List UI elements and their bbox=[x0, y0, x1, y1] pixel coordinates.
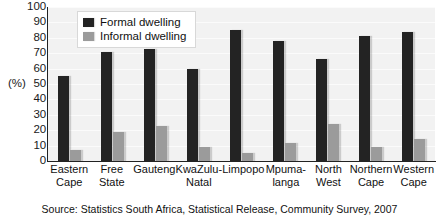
bar-informal bbox=[156, 126, 167, 161]
x-axis-tick-label-line1: Mpuma- bbox=[266, 163, 306, 175]
x-axis-tick-label: NorthernCape bbox=[350, 163, 393, 199]
bar-informal bbox=[414, 139, 425, 161]
x-axis-tick-label: KwaZulu-Natal bbox=[176, 163, 222, 199]
legend-item-label: Informal dwelling bbox=[100, 30, 186, 42]
x-axis-tick-label-line1: Limpopo bbox=[222, 163, 264, 175]
x-axis-tick-label: NorthWest bbox=[307, 163, 350, 199]
bar-formal bbox=[273, 41, 284, 161]
bar-formal bbox=[144, 49, 155, 161]
bar-group bbox=[349, 7, 392, 161]
x-axis-tick-label-line2: Cape bbox=[392, 176, 435, 189]
bar-informal bbox=[371, 147, 382, 161]
x-axis-tick-label-line1: Gauteng bbox=[133, 163, 175, 175]
bar-formal bbox=[230, 30, 241, 161]
x-axis-tick-label-line1: KwaZulu- bbox=[176, 163, 222, 175]
y-axis-tick-label: 70 bbox=[14, 47, 46, 59]
bar-group bbox=[263, 7, 306, 161]
x-axis-tick-label-line1: Western bbox=[393, 163, 434, 175]
bar-group bbox=[220, 7, 263, 161]
bar-informal bbox=[70, 150, 81, 161]
x-axis-tick-label: FreeState bbox=[91, 163, 134, 199]
y-axis-tick-label: 0 bbox=[14, 155, 46, 167]
legend-item-label: Formal dwelling bbox=[100, 16, 181, 28]
y-axis-unit-label: (%) bbox=[8, 78, 26, 90]
y-axis: 1009080706050(%)403020100 bbox=[14, 0, 46, 168]
legend-item: Formal dwelling bbox=[83, 15, 186, 29]
chart-legend: Formal dwellingInformal dwelling bbox=[77, 11, 196, 48]
legend-swatch-icon bbox=[83, 18, 94, 27]
source-note: Source: Statistics South Africa, Statist… bbox=[0, 203, 439, 215]
x-axis-tick-label-line2: Cape bbox=[350, 176, 393, 189]
x-axis-tick-label-line2: Natal bbox=[176, 176, 222, 189]
x-axis-tick-label-line1: Eastern bbox=[50, 163, 88, 175]
y-axis-tick-label: 40 bbox=[14, 94, 46, 106]
bar-informal bbox=[199, 147, 210, 161]
bar-formal bbox=[187, 69, 198, 161]
x-axis-tick-label-line2: West bbox=[307, 176, 350, 189]
y-axis-tick-label: 80 bbox=[14, 32, 46, 44]
legend-item: Informal dwelling bbox=[83, 29, 186, 43]
bar-informal bbox=[113, 132, 124, 161]
x-axis-tick-label-line2: Cape bbox=[48, 176, 91, 189]
bar-informal bbox=[242, 153, 253, 161]
x-axis-tick-label: Gauteng bbox=[133, 163, 176, 199]
bar-formal bbox=[402, 32, 413, 161]
x-axis-tick-label-line1: Northern bbox=[350, 163, 393, 175]
x-axis-tick-label: Limpopo bbox=[222, 163, 265, 199]
x-axis-tick-label-line2: langa bbox=[265, 176, 308, 189]
x-axis-tick-label-line1: North bbox=[315, 163, 342, 175]
y-axis-tick-label: 20 bbox=[14, 124, 46, 136]
x-axis-tick-label: EasternCape bbox=[48, 163, 91, 199]
y-axis-tick-label: 60 bbox=[14, 63, 46, 75]
x-axis-tick-label-line1: Free bbox=[100, 163, 123, 175]
y-axis-tick-label: 10 bbox=[14, 140, 46, 152]
legend-swatch-icon bbox=[83, 32, 94, 41]
bar-informal bbox=[328, 124, 339, 161]
chart-figure: 1009080706050(%)403020100 Formal dwellin… bbox=[0, 0, 439, 223]
bar-group bbox=[306, 7, 349, 161]
bar-formal bbox=[359, 36, 370, 161]
bar-formal bbox=[316, 59, 327, 161]
y-axis-tick-label: 30 bbox=[14, 109, 46, 121]
y-axis-tick-label: 90 bbox=[14, 17, 46, 29]
x-axis-tick-label: WesternCape bbox=[392, 163, 435, 199]
x-axis-labels: EasternCapeFreeStateGautengKwaZulu-Natal… bbox=[48, 163, 435, 199]
x-axis-tick-label: Mpuma-langa bbox=[265, 163, 308, 199]
bar-formal bbox=[101, 52, 112, 161]
bar-group bbox=[392, 7, 435, 161]
x-axis-tick-label-line2: State bbox=[91, 176, 134, 189]
bar-formal bbox=[58, 76, 69, 161]
y-axis-tick-label: 100 bbox=[14, 1, 46, 13]
bar-informal bbox=[285, 143, 296, 161]
